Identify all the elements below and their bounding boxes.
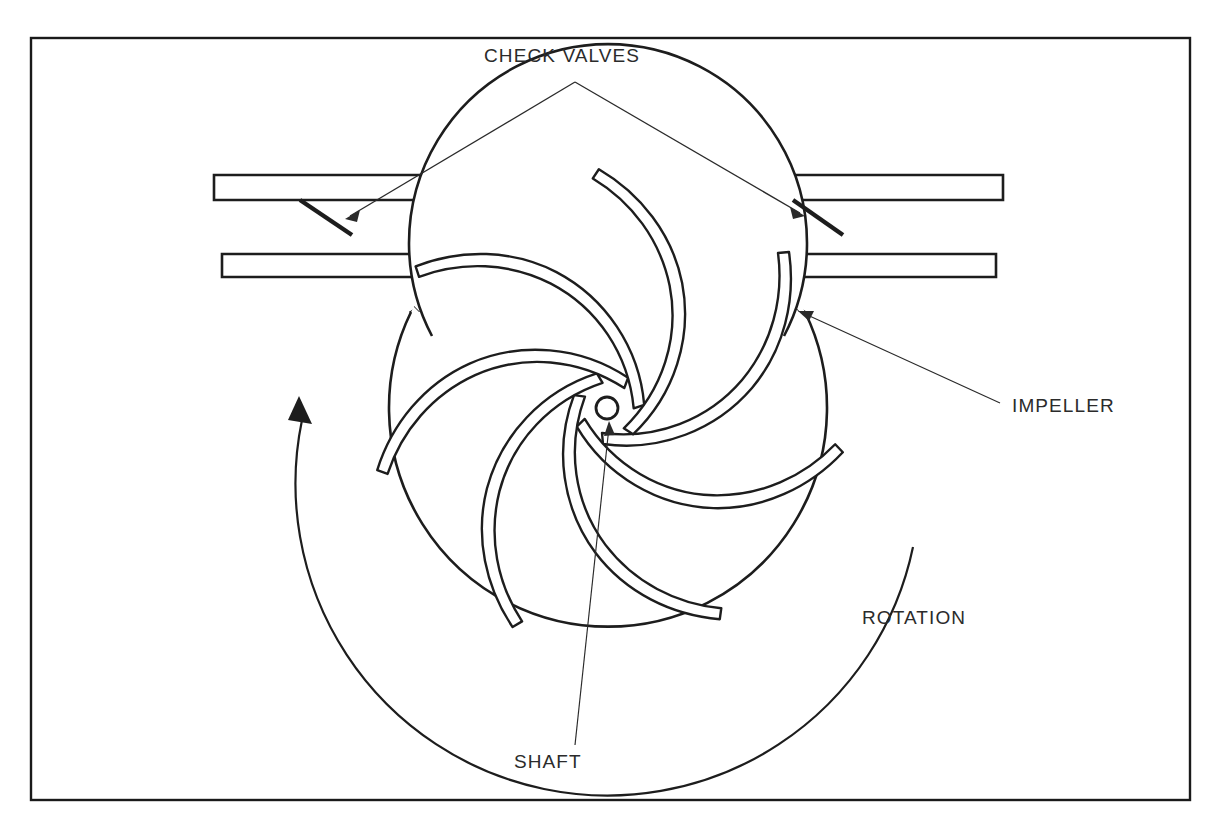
label-check-valves: CHECK VALVES <box>484 45 640 66</box>
pump-casing-ring <box>385 44 831 631</box>
label-shaft: SHAFT <box>514 751 582 772</box>
label-impeller: IMPELLER <box>1012 395 1115 416</box>
figure-root: CHECK VALVES IMPELLER ROTATION SHAFT <box>0 0 1217 826</box>
arrowhead-left <box>345 210 360 222</box>
rotation-arrowhead <box>288 396 312 424</box>
impeller-leader <box>798 311 1000 403</box>
shaft-circle <box>596 397 618 419</box>
pump-diagram: CHECK VALVES IMPELLER ROTATION SHAFT <box>0 0 1217 826</box>
label-rotation: ROTATION <box>862 607 966 628</box>
check-valve-flap-left <box>300 200 352 235</box>
